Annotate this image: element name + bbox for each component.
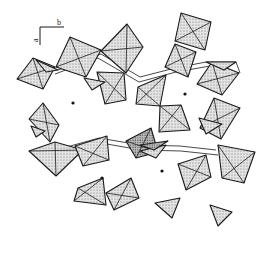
axis-indicator: b a (31, 18, 64, 45)
octahedron (159, 105, 190, 132)
axis-label-a: a (31, 38, 40, 42)
axis-lines (40, 27, 64, 45)
octahedron (165, 44, 196, 77)
channel-center-dot (183, 92, 186, 95)
crystal-structure-diagram: b a (0, 0, 271, 257)
octahedron (101, 24, 143, 73)
octahedron (97, 72, 126, 104)
octahedron (75, 136, 109, 166)
octahedron (136, 75, 166, 106)
axis-label-b: b (57, 18, 61, 27)
octahedron (106, 178, 139, 210)
octahedron (178, 155, 211, 190)
channel-center-dot (160, 169, 163, 172)
tetrahedron (210, 205, 232, 226)
octahedron (218, 145, 255, 183)
polyhedral-projection: b a (0, 0, 271, 257)
octahedron (17, 58, 55, 89)
octahedron (74, 178, 106, 205)
octahedron (175, 13, 211, 50)
channel-center-dot (100, 176, 103, 179)
channel-center-dot (71, 101, 74, 104)
octahedra-layer (17, 13, 255, 210)
octahedron (29, 103, 59, 142)
tetrahedron (155, 198, 180, 218)
